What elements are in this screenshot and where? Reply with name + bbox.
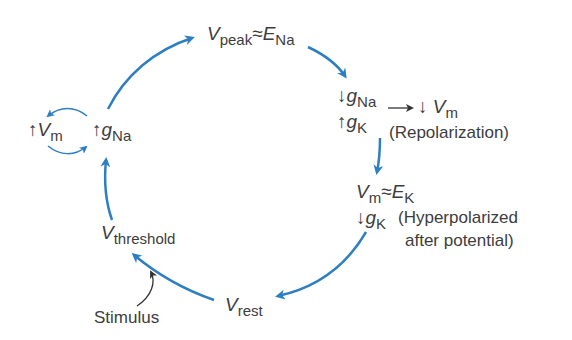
arrow-threshold-to-gna — [105, 160, 112, 220]
node-depolarize-gna: ↑gNa — [92, 120, 131, 143]
down-arrow-icon: ↓ — [418, 96, 428, 117]
node-hyper: Vm≈EK — [356, 182, 414, 205]
hyperpolarized-label-line2: after potential) — [405, 232, 514, 249]
repolarization-label: (Repolarization) — [389, 124, 509, 141]
peak-var-sub: peak — [220, 31, 253, 48]
arrow-rest-to-threshold — [134, 255, 214, 300]
arrow-feedback-top — [48, 109, 87, 117]
peak-ref-sub: Na — [275, 31, 294, 48]
arrow-repol-to-hyper — [377, 138, 380, 172]
arrow-gna-to-peak — [108, 38, 192, 109]
node-hyper-gk: ↓gK — [356, 208, 386, 231]
up-arrow-icon: ↑ — [337, 111, 347, 132]
node-repol-vm: ↓ Vm — [418, 97, 458, 120]
stimulus-label: Stimulus — [94, 309, 159, 326]
cycle-arrows — [0, 0, 572, 340]
arrow-stimulus — [137, 272, 153, 306]
up-arrow-icon: ↑ — [28, 119, 38, 140]
peak-rel: ≈ — [252, 23, 262, 44]
arrow-peak-to-repol — [308, 47, 345, 76]
node-repol-gna: ↓gNa — [337, 86, 376, 109]
node-threshold: Vthreshold — [101, 223, 175, 246]
node-repol-gk: ↑gK — [337, 112, 367, 135]
node-depolarize-vm: ↑Vm — [28, 120, 63, 143]
down-arrow-icon: ↓ — [356, 207, 366, 228]
arrow-hyper-to-rest — [278, 232, 366, 296]
node-rest: Vrest — [225, 295, 263, 318]
peak-var: V — [207, 23, 220, 44]
hyperpolarized-label-line1: (Hyperpolarized — [398, 209, 518, 226]
peak-ref: E — [263, 23, 276, 44]
node-peak: Vpeak≈ENa — [207, 24, 295, 47]
up-arrow-icon: ↑ — [92, 119, 102, 140]
arrow-feedback-bottom — [48, 146, 86, 154]
down-arrow-icon: ↓ — [337, 85, 347, 106]
